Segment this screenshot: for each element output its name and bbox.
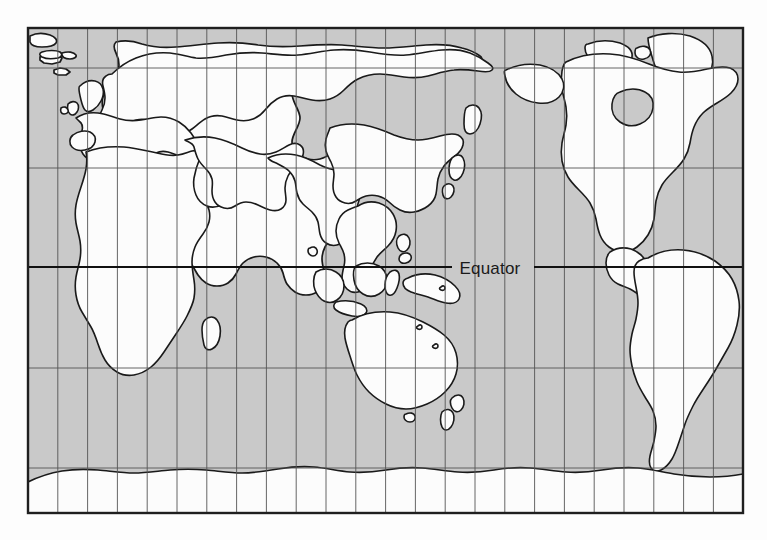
land-new-zealand-south xyxy=(441,409,455,430)
land-arctic-island-b xyxy=(62,52,76,59)
land-philippines-south xyxy=(399,253,411,263)
land-arctic-island-c xyxy=(635,46,651,59)
land-british-isles xyxy=(68,102,79,115)
land-philippines xyxy=(397,234,410,251)
land-japan-south xyxy=(442,184,454,199)
water-hudson-bay xyxy=(612,89,653,126)
land-madagascar xyxy=(202,317,220,350)
page-background: Equator xyxy=(0,0,767,540)
land-new-zealand-north xyxy=(451,395,465,412)
land-ireland xyxy=(61,107,69,114)
land-island-pacific-b xyxy=(433,344,439,348)
land-sri-lanka xyxy=(308,247,317,256)
land-tasmania xyxy=(404,413,415,422)
equator-label: Equator xyxy=(460,259,521,278)
land-arctic-island-a xyxy=(40,51,62,59)
world-map-svg: Equator xyxy=(0,0,767,540)
land-greenland-west xyxy=(30,34,57,47)
world-map-figure: Equator xyxy=(0,0,767,540)
land-island-pacific-c xyxy=(440,286,446,290)
land-iberia xyxy=(70,131,95,150)
land-island-pacific-a xyxy=(417,325,423,329)
